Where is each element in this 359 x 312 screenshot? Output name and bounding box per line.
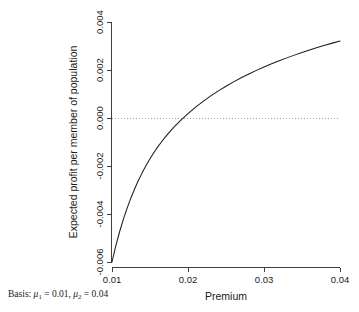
chart-figure: -0.006 -0.004 -0.002 0.000 0.002 0.004 E… [0, 0, 359, 312]
y-tick-label: -0.004 [94, 201, 105, 228]
x-axis-tick-labels: 0.01 0.02 0.03 0.04 [103, 274, 350, 285]
line-chart-canvas: -0.006 -0.004 -0.002 0.000 0.002 0.004 E… [0, 0, 359, 312]
x-axis-ticks [112, 268, 340, 273]
y-tick-label: 0.002 [94, 58, 105, 82]
mu-subscript-1: 1 [38, 293, 41, 300]
y-axis-tick-labels: -0.006 -0.004 -0.002 0.000 0.002 0.004 [94, 10, 105, 275]
x-tick-label: 0.02 [179, 274, 198, 285]
x-tick-label: 0.03 [255, 274, 274, 285]
y-tick-label: -0.006 [94, 249, 105, 276]
mu-subscript-2: 2 [78, 293, 81, 300]
x-tick-label: 0.01 [103, 274, 122, 285]
expected-profit-curve [112, 41, 340, 262]
y-tick-label: 0.004 [94, 10, 105, 34]
y-axis-title: Expected profit per member of population [67, 46, 79, 239]
x-tick-label: 0.04 [331, 274, 350, 285]
caption-prefix: Basis: [8, 289, 31, 299]
mu-value-1: = 0.01, [44, 289, 71, 299]
basis-caption: Basis: μ1 = 0.01, μ2 = 0.04 [8, 289, 108, 299]
y-tick-label: -0.002 [94, 153, 105, 180]
mu-value-2: = 0.04 [84, 289, 108, 299]
x-axis-title: Premium [205, 290, 247, 302]
y-tick-label: 0.000 [94, 106, 105, 130]
y-axis-ticks [107, 22, 112, 262]
